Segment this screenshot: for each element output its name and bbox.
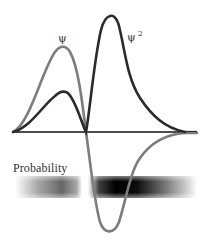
probability-label: Probability (13, 161, 67, 176)
psi-squared-label-base: ψ (127, 31, 136, 44)
probability-band (15, 176, 197, 198)
psi-curve (13, 47, 197, 232)
probability-band-vertical-fade (15, 176, 197, 198)
psi-label: ψ (58, 32, 67, 45)
psi-squared-label: ψ2 (127, 29, 143, 44)
psi-squared-curve (13, 16, 185, 132)
wavefunction-diagram: ψ ψ2 (0, 0, 207, 241)
psi-squared-label-exponent: 2 (138, 29, 143, 38)
